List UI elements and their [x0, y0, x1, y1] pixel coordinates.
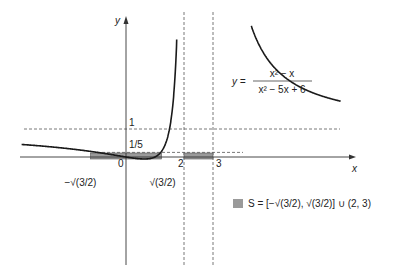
solution-interval-2 [184, 153, 213, 159]
x-tick-label-4: 3 [216, 158, 222, 169]
legend: S = [−√(3/2), √(3/2)] ∪ (2, 3) [233, 198, 371, 209]
x-tick-label-0: −√(3/2) [64, 177, 96, 188]
x-axis-arrow-icon [349, 155, 356, 160]
x-tick-label-2: √(3/2) [150, 177, 176, 188]
x-axis-label: x [351, 163, 358, 174]
y-axis-label: y [114, 15, 121, 26]
function-numerator: x² − x [270, 68, 295, 79]
y-axis-arrow-icon [124, 16, 129, 24]
y-tick-label-0: 1 [129, 117, 135, 128]
x-tick-label-1: 0 [118, 158, 124, 169]
x-tick-label-3: 2 [178, 158, 184, 169]
legend-text: S = [−√(3/2), √(3/2)] ∪ (2, 3) [248, 198, 371, 209]
function-denominator: x² − 5x + 6 [258, 84, 306, 95]
legend-swatch [233, 199, 243, 208]
y-tick-label-1: 1/5 [129, 139, 143, 150]
curve-left-branch [22, 39, 177, 159]
function-plot: x y −√(3/2)0√(3/2)2311/5 y = x² − x x² −… [0, 0, 397, 265]
function-label: y = x² − x x² − 5x + 6 [231, 68, 312, 95]
function-lhs: y = [231, 76, 246, 87]
